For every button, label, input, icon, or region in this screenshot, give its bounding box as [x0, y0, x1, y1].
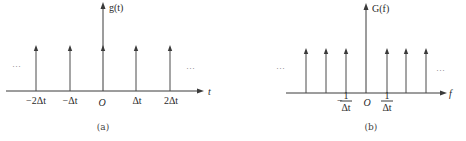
- g-axis-arrow-icon: [101, 2, 106, 9]
- impulse-arrow-icon: [134, 45, 138, 51]
- t-axis-label: t: [208, 86, 211, 97]
- G-axis-label: G(f): [372, 3, 389, 15]
- caption-b: (b): [365, 122, 378, 132]
- panel-a: t g(t) ··· ··· −2Δt −Δt O Δt 2Δt: [6, 2, 211, 132]
- impulse-arrow-icon: [344, 48, 348, 54]
- impulse-arrow-icon: [101, 45, 105, 51]
- ellipsis-left: ···: [276, 63, 285, 73]
- origin-label: O: [363, 97, 370, 108]
- caption-a: (a): [97, 122, 109, 132]
- impulse-arrow-icon: [34, 45, 38, 51]
- numerator: 1: [385, 90, 390, 101]
- tick-label: 2Δt: [164, 95, 178, 106]
- tick-label: −2Δt: [26, 95, 46, 106]
- numerator: 1: [344, 90, 349, 101]
- impulse: [404, 48, 408, 93]
- impulse-arrow-icon: [68, 45, 72, 51]
- figure: t g(t) ··· ··· −2Δt −Δt O Δt 2Δt: [0, 0, 466, 141]
- impulse: [304, 48, 308, 93]
- f-axis-arrow-icon: [440, 91, 447, 96]
- denominator: Δt: [341, 102, 350, 113]
- impulse: [324, 48, 328, 93]
- impulse: [34, 45, 38, 91]
- origin-label: O: [98, 97, 105, 108]
- t-axis-arrow-icon: [197, 89, 204, 94]
- impulse: [424, 48, 428, 93]
- ellipsis-right: ···: [186, 63, 195, 73]
- panel-b: f G(f) ··· ···: [276, 3, 453, 132]
- impulse: [385, 48, 389, 93]
- impulse-arrow-icon: [404, 48, 408, 54]
- ellipsis-right: ···: [436, 65, 445, 75]
- f-axis-label: f: [449, 88, 453, 99]
- impulse-arrow-icon: [324, 48, 328, 54]
- denominator: Δt: [382, 102, 391, 113]
- ellipsis-left: ···: [12, 61, 21, 71]
- impulse-arrow-icon: [385, 48, 389, 54]
- impulse: [134, 45, 138, 91]
- impulse: [68, 45, 72, 91]
- tick-label: −Δt: [63, 95, 78, 106]
- tick-label: Δt: [132, 95, 141, 106]
- impulse: [168, 45, 172, 91]
- G-axis-arrow-icon: [364, 3, 369, 10]
- g-axis-label: g(t): [109, 2, 123, 14]
- impulse: [344, 48, 348, 93]
- impulse-arrow-icon: [304, 48, 308, 54]
- impulse-arrow-icon: [168, 45, 172, 51]
- impulse-arrow-icon: [424, 48, 428, 54]
